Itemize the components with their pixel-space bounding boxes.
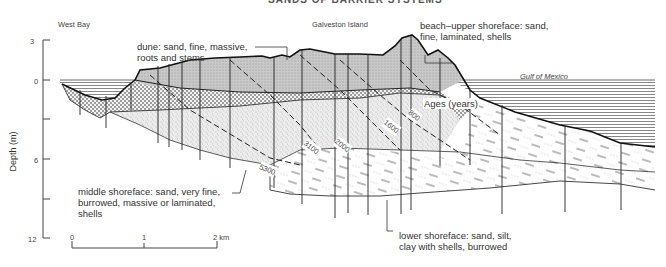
lower-shoreface-label: lower shoreface: sand, silt, clay with s… — [399, 230, 511, 252]
beach-label: beach–upper shoreface: sand, fine, lamin… — [420, 20, 548, 42]
tick-6: 6 — [34, 155, 38, 166]
lower-leader — [387, 200, 393, 231]
gulf-of-mexico-label: Gulf of Mexico — [520, 71, 568, 82]
cross-section-diagram — [0, 0, 666, 267]
dune-label: dune: sand, fine, massive, roots and ste… — [137, 41, 247, 63]
scale-1: 1 — [142, 232, 146, 243]
depth-axis-label: Depth (m) — [8, 131, 19, 171]
galveston-island-label: Galveston Island — [312, 19, 368, 30]
scale-2km: 2 km — [213, 232, 229, 243]
west-bay-label: West Bay — [58, 19, 90, 30]
scale-0: 0 — [70, 232, 74, 243]
ages-label: Ages (years) — [423, 98, 479, 109]
middle-leader — [232, 170, 246, 193]
depth-axis — [43, 40, 50, 238]
tick-0: 0 — [34, 76, 38, 87]
tick-3: 3 — [30, 36, 34, 47]
tick-12: 12 — [28, 234, 36, 245]
middle-shoreface-label: middle shoreface: sand, very fine, burro… — [78, 186, 220, 219]
